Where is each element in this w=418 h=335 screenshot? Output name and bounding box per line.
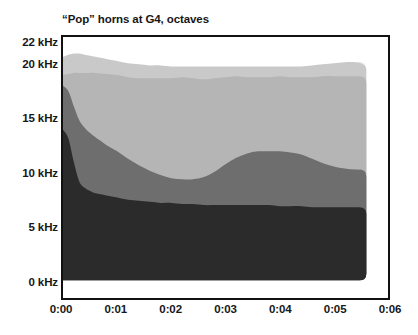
plot-area xyxy=(61,35,390,300)
y-tick-label-22: 22 kHz xyxy=(0,36,58,48)
x-axis: 0:000:010:020:030:040:050:06 xyxy=(0,303,418,325)
x-tick-label-0: 0:00 xyxy=(50,303,73,315)
stacked-area-plot xyxy=(63,37,388,298)
x-tick-label-5: 0:05 xyxy=(324,303,347,315)
y-tick-label-5: 5 kHz xyxy=(0,221,58,233)
y-tick-label-0: 0 kHz xyxy=(0,276,58,288)
y-tick-label-10: 10 kHz xyxy=(0,167,58,179)
y-axis: 22 kHz20 kHz15 kHz10 kHz5 kHz0 kHz xyxy=(0,0,58,335)
x-tick-label-6: 0:06 xyxy=(379,303,402,315)
x-tick-label-3: 0:03 xyxy=(214,303,237,315)
chart-title: “Pop” horns at G4, octaves xyxy=(62,13,209,25)
y-tick-label-20: 20 kHz xyxy=(0,58,58,70)
y-tick-label-15: 15 kHz xyxy=(0,112,58,124)
chart-root: “Pop” horns at G4, octaves 22 kHz20 kHz1… xyxy=(0,0,418,335)
x-tick-label-1: 0:01 xyxy=(105,303,128,315)
x-tick-label-4: 0:04 xyxy=(269,303,292,315)
x-tick-label-2: 0:02 xyxy=(159,303,182,315)
